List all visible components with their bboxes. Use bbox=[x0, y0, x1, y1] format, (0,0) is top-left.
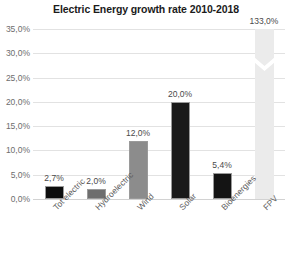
y-axis-tick-label: 25,0% bbox=[0, 73, 30, 83]
bar-value-label: 5,4% bbox=[198, 160, 246, 170]
gridline bbox=[33, 29, 285, 30]
bar-value-label: 2,7% bbox=[30, 173, 78, 183]
chart-container: Electric Energy growth rate 2010-2018 0,… bbox=[0, 0, 292, 253]
bar-value-label: 20,0% bbox=[156, 89, 204, 99]
bar-value-label: 133,0% bbox=[240, 16, 288, 26]
y-axis-tick-label: 20,0% bbox=[0, 97, 30, 107]
y-axis-tick-label: 5,0% bbox=[0, 170, 30, 180]
gridline bbox=[33, 78, 285, 79]
bar-solar bbox=[171, 102, 190, 199]
plot-area: 2,7%2,0%12,0%20,0%5,4%133,0% bbox=[33, 29, 285, 199]
y-axis-tick-label: 30,0% bbox=[0, 48, 30, 58]
y-axis-tick-label: 0,0% bbox=[0, 194, 30, 204]
bar-fpv bbox=[255, 29, 274, 199]
gridline bbox=[33, 53, 285, 54]
bar-value-label: 12,0% bbox=[114, 128, 162, 138]
y-axis-tick-label: 15,0% bbox=[0, 121, 30, 131]
y-axis-tick-label: 35,0% bbox=[0, 24, 30, 34]
chart-title: Electric Energy growth rate 2010-2018 bbox=[0, 3, 292, 15]
bar-wind bbox=[129, 141, 148, 199]
y-axis-tick-label: 10,0% bbox=[0, 145, 30, 155]
gridline bbox=[33, 150, 285, 151]
gridline bbox=[33, 102, 285, 103]
